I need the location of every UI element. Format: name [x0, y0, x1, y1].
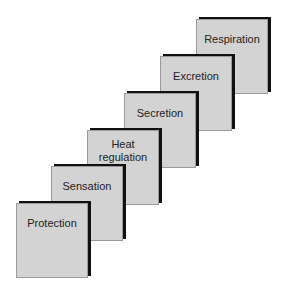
step-label-line-1: Heat	[88, 138, 158, 151]
step-label: Respiration	[197, 33, 267, 46]
step-label-line-2: regulation	[88, 151, 158, 164]
step-label: Excretion	[161, 70, 231, 83]
step-label: Secretion	[125, 107, 195, 120]
step-face: Protection	[16, 203, 88, 278]
step-label: Protection	[17, 217, 87, 230]
step-label: Sensation	[52, 180, 122, 193]
step-protection: Protection	[16, 203, 88, 278]
